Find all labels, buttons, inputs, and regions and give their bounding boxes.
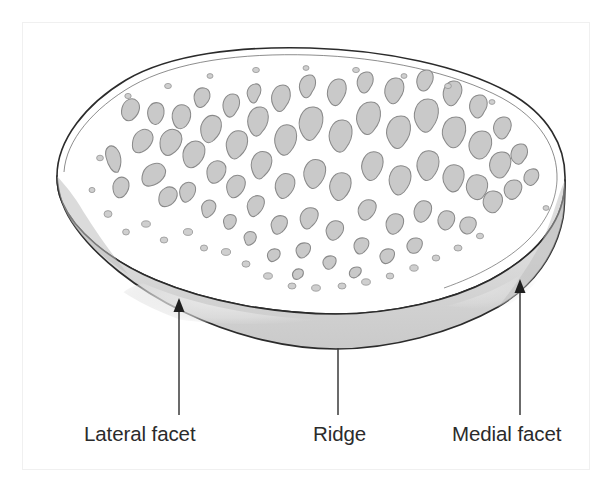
label-medial-facet: Medial facet <box>452 424 561 445</box>
label-ridge: Ridge <box>313 424 366 445</box>
label-lateral-facet: Lateral facet <box>84 424 196 445</box>
patella-illustration <box>0 0 613 489</box>
figure-container: Lateral facet Ridge Medial facet <box>0 0 613 489</box>
